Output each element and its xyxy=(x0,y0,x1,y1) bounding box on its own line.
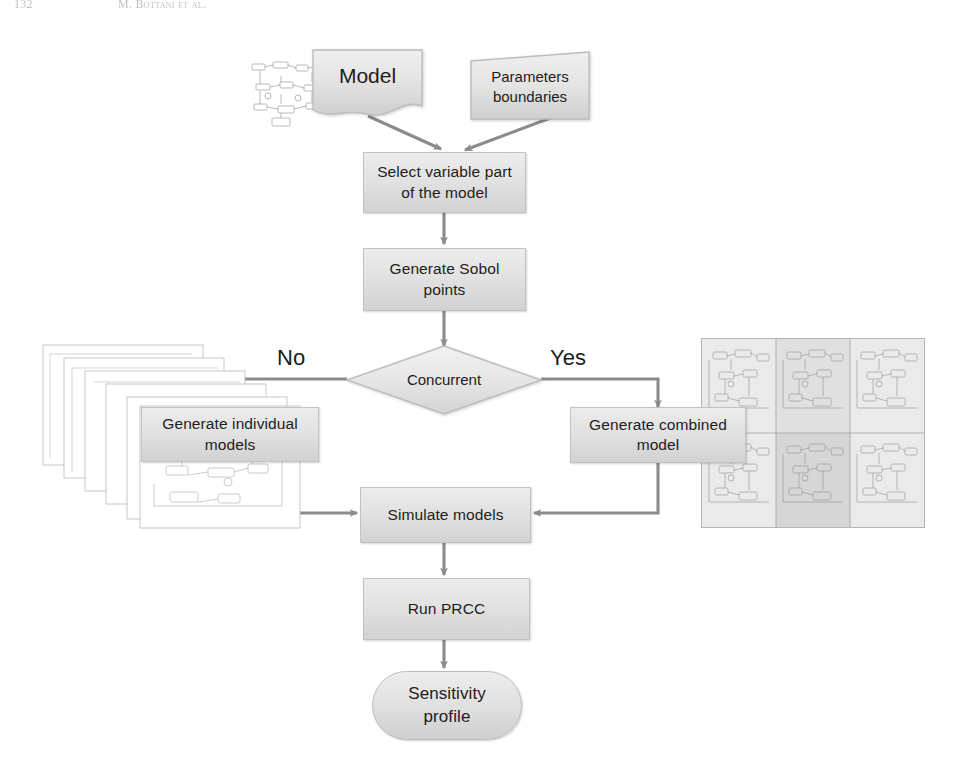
figure-canvas: 132 M. Bottani et al. xyxy=(0,0,961,766)
node-sensitivity-profile-label: Sensitivity profile xyxy=(396,683,498,728)
node-generate-individual-models-label: Generate individual models xyxy=(150,414,309,455)
branch-label-no: No xyxy=(277,345,305,371)
node-generate-sobol-points[interactable]: Generate Sobol points xyxy=(363,248,526,311)
select-line-2: of the model xyxy=(371,183,518,203)
node-sensitivity-profile[interactable]: Sensitivity profile xyxy=(372,671,522,740)
sensitivity-line-1: Sensitivity xyxy=(402,683,492,705)
node-run-prcc-label: Run PRCC xyxy=(402,599,491,619)
node-generate-sobol-points-label: Generate Sobol points xyxy=(378,259,512,300)
sobol-line-2: points xyxy=(384,280,506,300)
connector-combined-to-simulate xyxy=(534,462,658,513)
combined-line-2: model xyxy=(583,435,733,455)
sensitivity-line-2: profile xyxy=(402,706,492,728)
node-generate-combined-model-label: Generate combined model xyxy=(577,415,739,456)
node-model[interactable]: Model xyxy=(311,48,424,123)
individual-line-2: models xyxy=(156,435,303,455)
individual-line-1: Generate individual xyxy=(156,414,303,434)
connector-yes-branch xyxy=(541,379,658,407)
select-line-1: Select variable part xyxy=(371,162,518,182)
node-generate-individual-models[interactable]: Generate individual models xyxy=(141,407,319,462)
node-select-variable-part-label: Select variable part of the model xyxy=(365,162,524,203)
node-generate-combined-model[interactable]: Generate combined model xyxy=(570,407,746,463)
node-simulate-models-label: Simulate models xyxy=(381,505,509,525)
sobol-line-1: Generate Sobol xyxy=(384,259,506,279)
combined-line-1: Generate combined xyxy=(583,415,733,435)
node-select-variable-part[interactable]: Select variable part of the model xyxy=(363,152,526,213)
node-parameters-boundaries[interactable]: Parameters boundaries xyxy=(468,50,592,122)
node-concurrent-decision[interactable]: Concurrent xyxy=(345,344,543,416)
node-run-prcc[interactable]: Run PRCC xyxy=(363,578,530,640)
branch-label-yes: Yes xyxy=(550,345,586,371)
node-simulate-models[interactable]: Simulate models xyxy=(360,487,531,543)
